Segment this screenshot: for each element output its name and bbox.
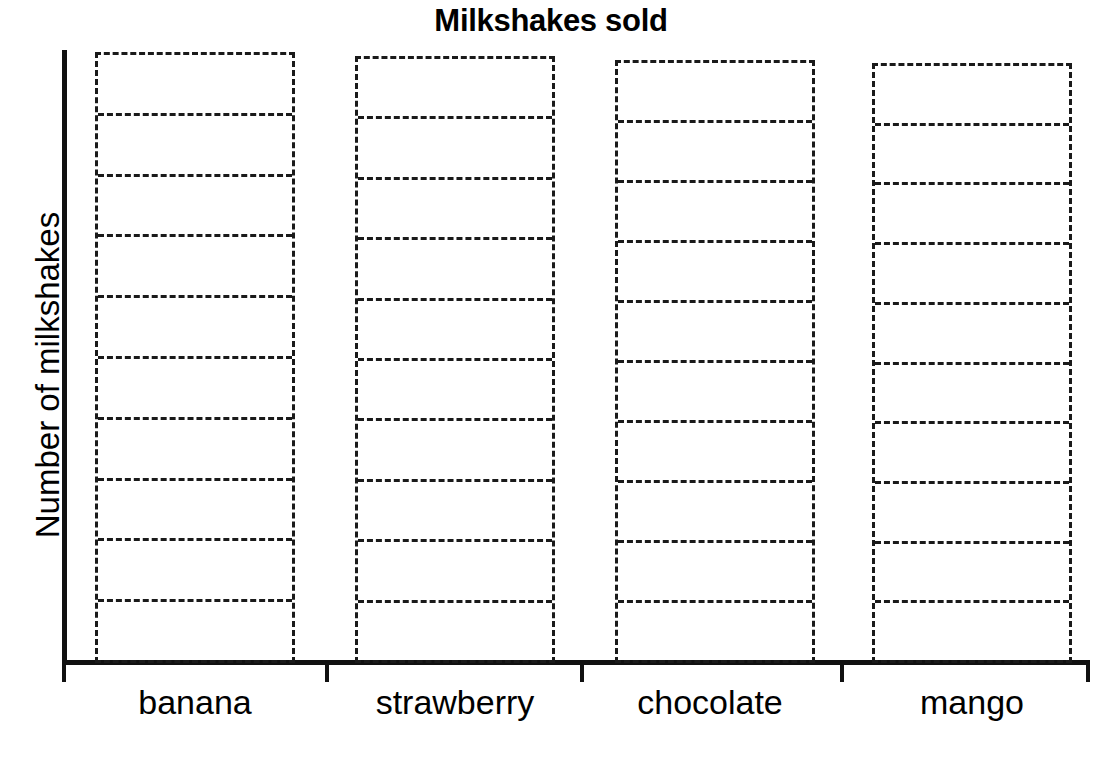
bar-segment[interactable] bbox=[358, 482, 552, 542]
bar-segment[interactable] bbox=[358, 59, 552, 119]
bar-segment[interactable] bbox=[98, 481, 292, 542]
bar-segment[interactable] bbox=[98, 541, 292, 602]
x-label-strawberry: strawberry bbox=[337, 681, 573, 723]
bar-segment[interactable] bbox=[875, 603, 1069, 660]
bar-segment[interactable] bbox=[98, 177, 292, 238]
bar-segment[interactable] bbox=[618, 423, 812, 483]
bar-segment[interactable] bbox=[875, 185, 1069, 245]
bar-segment[interactable] bbox=[875, 66, 1069, 126]
bar-segment[interactable] bbox=[875, 544, 1069, 604]
bar-segment[interactable] bbox=[98, 116, 292, 177]
chart-page: Milkshakes sold Number of milkshakes bbox=[0, 0, 1102, 758]
bar-segment[interactable] bbox=[358, 119, 552, 179]
plot-area bbox=[0, 0, 1102, 758]
bar-segment[interactable] bbox=[358, 361, 552, 421]
x-label-mango: mango bbox=[872, 681, 1072, 723]
bar-segment[interactable] bbox=[875, 484, 1069, 544]
bar-segment[interactable] bbox=[358, 240, 552, 300]
bar-segment[interactable] bbox=[618, 183, 812, 243]
bar-segment[interactable] bbox=[358, 542, 552, 602]
bar-mango[interactable] bbox=[872, 63, 1072, 663]
bar-strawberry[interactable] bbox=[355, 56, 555, 663]
bar-segment[interactable] bbox=[358, 603, 552, 660]
bar-segment[interactable] bbox=[98, 602, 292, 660]
bar-segment[interactable] bbox=[98, 237, 292, 298]
bar-chocolate[interactable] bbox=[615, 60, 815, 663]
bar-banana[interactable] bbox=[95, 52, 295, 663]
bar-segment[interactable] bbox=[618, 123, 812, 183]
bar-segment[interactable] bbox=[98, 359, 292, 420]
bar-segment[interactable] bbox=[358, 301, 552, 361]
bar-segment[interactable] bbox=[618, 543, 812, 603]
bar-segment[interactable] bbox=[618, 243, 812, 303]
bar-segment[interactable] bbox=[98, 55, 292, 116]
x-label-chocolate: chocolate bbox=[597, 681, 823, 723]
bar-segment[interactable] bbox=[875, 126, 1069, 186]
bar-segment[interactable] bbox=[358, 421, 552, 481]
bar-segment[interactable] bbox=[875, 424, 1069, 484]
bar-segment[interactable] bbox=[618, 483, 812, 543]
bar-segment[interactable] bbox=[618, 63, 812, 123]
bar-segment[interactable] bbox=[98, 420, 292, 481]
bar-segment[interactable] bbox=[875, 365, 1069, 425]
x-label-banana: banana bbox=[95, 681, 295, 723]
bar-segment[interactable] bbox=[618, 363, 812, 423]
bar-segment[interactable] bbox=[618, 303, 812, 363]
bar-segment[interactable] bbox=[98, 298, 292, 359]
bar-segment[interactable] bbox=[618, 603, 812, 660]
bar-segment[interactable] bbox=[875, 305, 1069, 365]
bar-segment[interactable] bbox=[875, 245, 1069, 305]
bar-segment[interactable] bbox=[358, 180, 552, 240]
